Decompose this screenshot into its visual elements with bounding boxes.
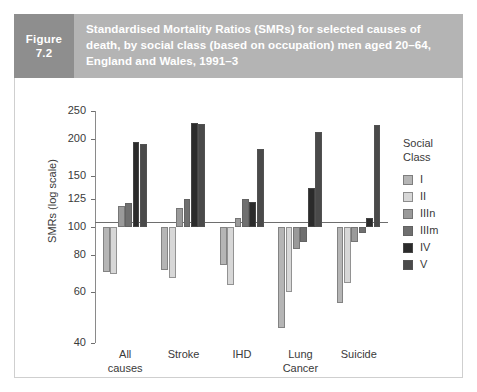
y-tick-label: 200 xyxy=(52,133,86,144)
bar xyxy=(176,208,183,227)
legend-swatch-icon xyxy=(403,243,413,253)
y-tick-mark xyxy=(91,255,95,256)
bar xyxy=(125,203,132,227)
y-tick-mark xyxy=(91,139,95,140)
legend-item: IIIm xyxy=(403,222,465,239)
bar xyxy=(227,227,234,285)
x-tick-line: Cancer xyxy=(265,362,335,376)
y-tick-label: 250 xyxy=(52,105,86,116)
y-tick-mark xyxy=(91,111,95,112)
x-tick-line: causes xyxy=(90,362,160,376)
bar xyxy=(351,227,358,242)
bar xyxy=(242,199,249,227)
legend-title-line1: Social xyxy=(403,136,465,150)
legend-item: IIIn xyxy=(403,205,465,222)
bar xyxy=(308,188,315,227)
y-tick-label: 150 xyxy=(52,170,86,181)
legend-item-label: IV xyxy=(420,242,430,253)
figure-tag-word: Figure xyxy=(26,32,62,46)
bar xyxy=(220,227,227,265)
bar xyxy=(184,199,191,227)
figure-header: Figure 7.2 Standardised Mortality Ratios… xyxy=(14,14,463,78)
legend: Social Class IIIIIInIIImIVV xyxy=(403,136,465,273)
bar xyxy=(133,142,140,227)
y-tick-label: 100 xyxy=(52,221,86,232)
legend-item-label: IIIm xyxy=(420,225,438,236)
legend-swatch-icon xyxy=(403,192,413,202)
figure-root: Figure 7.2 Standardised Mortality Ratios… xyxy=(0,0,477,392)
bar xyxy=(315,132,322,227)
bar xyxy=(118,206,125,227)
y-tick-mark xyxy=(91,292,95,293)
bar xyxy=(191,123,198,227)
figure-tag-number: 7.2 xyxy=(36,46,53,60)
bar xyxy=(293,227,300,249)
y-tick-mark xyxy=(91,199,95,200)
y-axis-line xyxy=(95,111,96,343)
y-tick-mark xyxy=(91,343,95,344)
legend-item-label: V xyxy=(420,259,427,270)
figure-number-tag: Figure 7.2 xyxy=(14,14,74,78)
bar xyxy=(235,218,242,227)
legend-swatch-icon xyxy=(403,209,413,219)
legend-swatch-icon xyxy=(403,226,413,236)
legend-swatch-icon xyxy=(403,175,413,185)
bar xyxy=(278,227,285,328)
legend-title-line2: Class xyxy=(403,150,465,164)
legend-item: V xyxy=(403,256,465,273)
bar xyxy=(140,144,147,227)
bar xyxy=(257,149,264,227)
legend-item-label: I xyxy=(420,174,423,185)
bar xyxy=(300,227,307,242)
y-tick-label: 60 xyxy=(52,286,86,297)
x-tick-line: Suicide xyxy=(324,348,394,362)
legend-title: Social Class xyxy=(403,136,465,164)
bar xyxy=(344,227,351,283)
bar xyxy=(249,202,256,227)
bar xyxy=(103,227,110,272)
bar xyxy=(161,227,168,270)
legend-item: I xyxy=(403,171,465,188)
legend-items: IIIIIInIIImIVV xyxy=(403,171,465,273)
bar xyxy=(286,227,293,292)
legend-item-label: II xyxy=(420,191,426,202)
bar xyxy=(374,125,381,227)
bar xyxy=(359,227,366,233)
bar xyxy=(169,227,176,278)
y-tick-mark xyxy=(91,227,95,228)
y-tick-label: 40 xyxy=(52,337,86,348)
y-tick-label: 125 xyxy=(52,193,86,204)
x-tick-label: Suicide xyxy=(324,348,394,362)
legend-item: II xyxy=(403,188,465,205)
bar xyxy=(198,124,205,227)
y-tick-label: 80 xyxy=(52,249,86,260)
legend-item-label: IIIn xyxy=(420,208,435,219)
bar xyxy=(366,218,373,227)
legend-swatch-icon xyxy=(403,260,413,270)
y-tick-mark xyxy=(91,176,95,177)
figure-title: Standardised Mortality Ratios (SMRs) for… xyxy=(74,14,463,78)
bar xyxy=(110,227,117,274)
bar xyxy=(337,227,344,303)
legend-item: IV xyxy=(403,239,465,256)
